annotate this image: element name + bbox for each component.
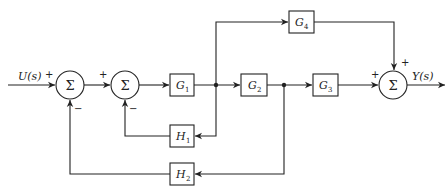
sum3-plus-sign-top: + bbox=[401, 57, 409, 68]
sum3-plus-sign-left: + bbox=[371, 69, 379, 80]
sum2-plus-sign: + bbox=[99, 69, 107, 80]
svg-text:G: G bbox=[319, 79, 328, 92]
block-g1: G 1 bbox=[170, 74, 194, 96]
svg-text:2: 2 bbox=[186, 175, 190, 183]
block-g2: G 2 bbox=[241, 74, 267, 96]
svg-text:U(s): U(s) bbox=[18, 70, 42, 83]
sigma-symbol: Σ bbox=[120, 78, 129, 93]
svg-text:H: H bbox=[175, 130, 186, 143]
svg-text:G: G bbox=[248, 79, 257, 92]
block-h1: H 1 bbox=[170, 125, 194, 147]
link-node2-h2 bbox=[195, 85, 284, 174]
svg-text:Y(s): Y(s) bbox=[412, 70, 434, 83]
input-signal: U(s) + bbox=[8, 69, 55, 85]
link-h2-sum1 bbox=[70, 100, 170, 174]
svg-text:H: H bbox=[175, 168, 186, 181]
svg-text:G: G bbox=[295, 16, 304, 29]
svg-text:3: 3 bbox=[328, 86, 332, 94]
sum2-minus-sign: − bbox=[129, 103, 137, 114]
block-diagram: U(s) + Σ − + Σ − G 1 G 4 + H 1 bbox=[0, 0, 447, 195]
svg-text:4: 4 bbox=[304, 23, 309, 31]
svg-text:1: 1 bbox=[186, 137, 190, 145]
svg-text:G: G bbox=[176, 79, 185, 92]
sigma-symbol: Σ bbox=[388, 78, 397, 93]
block-h2: H 2 bbox=[170, 163, 194, 185]
sigma-symbol: Σ bbox=[65, 78, 74, 93]
sum1-plus-sign: + bbox=[45, 69, 53, 80]
link-g4-sum3 bbox=[314, 22, 394, 70]
link-node1-h1 bbox=[195, 85, 216, 136]
sum1-minus-sign: − bbox=[74, 103, 82, 114]
summing-junction-3: Σ bbox=[379, 71, 407, 99]
svg-text:2: 2 bbox=[257, 86, 261, 94]
block-g3: G 3 bbox=[313, 74, 338, 96]
block-g4: G 4 bbox=[289, 11, 314, 33]
svg-text:1: 1 bbox=[185, 86, 189, 94]
output-signal: Y(s) bbox=[407, 70, 445, 85]
